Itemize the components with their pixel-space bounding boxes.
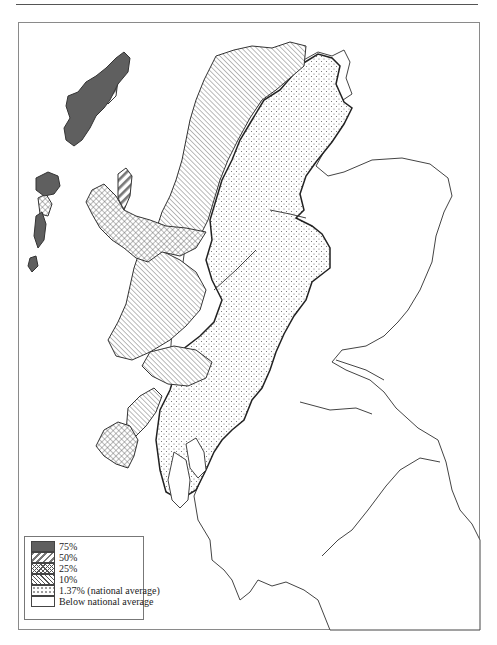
legend-item-50: 50% (31, 552, 137, 563)
region-75-percent-uist (34, 212, 46, 248)
legend-item-10: 10% (31, 574, 137, 585)
fine-diagonal-swatch-icon (31, 574, 55, 585)
dots-swatch-icon (31, 585, 55, 596)
map-legend: 75% 50% 25% 10% 1.37% (national average)… (24, 536, 144, 620)
legend-label: 25% (59, 563, 77, 574)
legend-item-75: 75% (31, 541, 137, 552)
legend-label: 10% (59, 574, 77, 585)
legend-label: Below national average (59, 596, 153, 607)
legend-label: 1.37% (national average) (59, 585, 160, 596)
crosshatch-swatch-icon (31, 563, 55, 574)
legend-item-25: 25% (31, 563, 137, 574)
legend-label: 75% (59, 541, 77, 552)
region-75-percent-lewis (64, 52, 130, 146)
legend-item-below: Below national average (31, 596, 137, 607)
region-75-percent-barra (28, 256, 38, 272)
solid-dark-swatch-icon (31, 541, 55, 552)
wide-diagonal-swatch-icon (31, 552, 55, 563)
region-25-percent-islay (96, 422, 138, 468)
blank-swatch-icon (31, 596, 55, 607)
legend-item-1-37: 1.37% (national average) (31, 585, 137, 596)
region-75-percent-harris (36, 172, 60, 196)
legend-label: 50% (59, 552, 77, 563)
